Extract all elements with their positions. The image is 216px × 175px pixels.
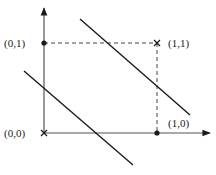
point-label: (0,0): [4, 127, 25, 140]
point-label: (1,0): [168, 117, 189, 130]
data-points: [41, 40, 160, 136]
point-labels: (0,0)(0,1)(1,1)(1,0): [4, 37, 189, 140]
upper-boundary-line: [80, 19, 190, 115]
dot-marker-icon: [41, 40, 46, 45]
point-label: (0,1): [4, 37, 25, 50]
decision-boundaries: [24, 19, 190, 165]
dashed-guides: [44, 43, 157, 133]
point-label: (1,1): [168, 37, 189, 50]
lower-boundary-line: [24, 71, 133, 165]
dot-marker-icon: [154, 130, 159, 135]
xor-diagram: (0,0)(0,1)(1,1)(1,0): [0, 0, 216, 175]
